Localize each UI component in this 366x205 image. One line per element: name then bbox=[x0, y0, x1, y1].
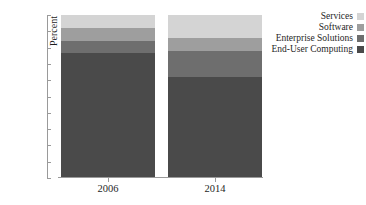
x-tick-label-2014: 2014 bbox=[185, 183, 245, 194]
legend: ServicesSoftwareEnterprise SolutionsEnd-… bbox=[234, 11, 364, 55]
x-axis-line bbox=[58, 177, 263, 178]
legend-swatch-icon bbox=[357, 13, 364, 20]
bar-segment[interactable] bbox=[61, 41, 155, 52]
y-tick bbox=[47, 113, 51, 114]
bar-segment[interactable] bbox=[61, 15, 155, 28]
y-tick bbox=[47, 162, 51, 163]
bar-segment[interactable] bbox=[168, 77, 262, 178]
bar-segment[interactable] bbox=[61, 53, 155, 179]
legend-swatch-icon bbox=[357, 24, 364, 31]
legend-label: Software bbox=[319, 22, 353, 32]
y-tick bbox=[47, 178, 51, 179]
legend-swatch-icon bbox=[357, 46, 364, 53]
y-tick bbox=[47, 64, 51, 65]
legend-label: Services bbox=[321, 11, 353, 21]
x-tick bbox=[108, 178, 109, 182]
y-tick bbox=[47, 129, 51, 130]
y-tick bbox=[47, 48, 51, 49]
stacked-bar-chart: 100%90%80%70%60%50%40%30%20%10%0% Percen… bbox=[0, 0, 366, 205]
bar-2006[interactable] bbox=[61, 15, 155, 178]
legend-label: Enterprise Solutions bbox=[276, 33, 353, 43]
plot-area bbox=[58, 15, 263, 178]
legend-label: End-User Computing bbox=[271, 44, 353, 54]
legend-item[interactable]: Services bbox=[234, 11, 364, 22]
y-tick bbox=[47, 145, 51, 146]
y-tick bbox=[47, 97, 51, 98]
legend-item[interactable]: Enterprise Solutions bbox=[234, 33, 364, 44]
x-tick bbox=[215, 178, 216, 182]
y-tick bbox=[47, 80, 51, 81]
legend-item[interactable]: Software bbox=[234, 22, 364, 33]
legend-swatch-icon bbox=[357, 35, 364, 42]
legend-item[interactable]: End-User Computing bbox=[234, 44, 364, 55]
x-tick-label-2006: 2006 bbox=[78, 183, 138, 194]
bar-segment[interactable] bbox=[61, 28, 155, 41]
